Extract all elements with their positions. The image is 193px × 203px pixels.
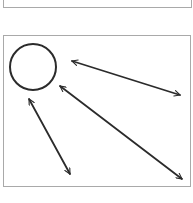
diagram-canvas — [0, 0, 193, 203]
arrow-circle-to-right-icon — [72, 61, 180, 95]
arrow-circle-to-bottom-right-icon — [60, 86, 182, 179]
circle-shape — [10, 44, 56, 90]
arrow-left-vertical-icon — [29, 99, 70, 174]
